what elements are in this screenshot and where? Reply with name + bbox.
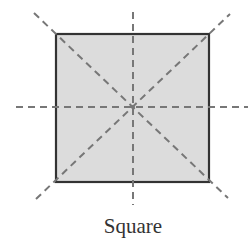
center-point [131, 105, 135, 109]
figure-caption: Square [0, 214, 250, 239]
square-diagram [0, 0, 250, 248]
